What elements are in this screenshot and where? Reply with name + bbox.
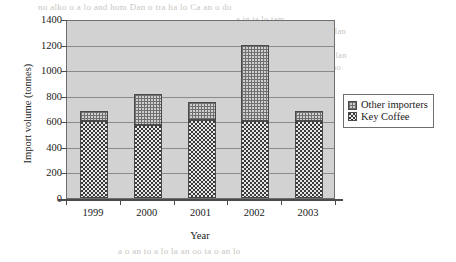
y-tick-mark: [61, 97, 67, 98]
bar-segment-key-coffee[interactable]: [80, 121, 108, 198]
bar-segment-other-importers[interactable]: [80, 111, 108, 121]
y-tick-mark: [61, 148, 67, 149]
x-tick-label: 2003: [286, 207, 330, 218]
gridline: [67, 46, 334, 47]
x-tick-label: 2000: [125, 207, 169, 218]
gridline: [67, 71, 334, 72]
x-tick-mark: [227, 199, 228, 205]
plot-area: [66, 20, 335, 199]
x-tick-label: 2001: [179, 207, 223, 218]
x-tick-mark: [174, 199, 175, 205]
bar-segment-other-importers[interactable]: [188, 102, 216, 120]
legend-swatch-icon: [348, 112, 357, 121]
chart-legend: Other importersKey Coffee: [343, 94, 434, 128]
bar-segment-other-importers[interactable]: [241, 45, 269, 122]
legend-entry[interactable]: Key Coffee: [348, 112, 428, 123]
scan-bleed-text: a o an to a lo la an oo ta o an lo: [118, 246, 241, 256]
y-tick-label: 1000: [41, 66, 62, 77]
x-tick-label: 1999: [71, 207, 115, 218]
x-tick-mark: [120, 199, 121, 205]
bar-segment-other-importers[interactable]: [134, 94, 162, 125]
y-tick-label: 800: [46, 91, 62, 102]
x-tick-mark: [335, 199, 336, 205]
x-tick-mark: [66, 199, 67, 205]
y-tick-label: 400: [46, 143, 62, 154]
y-tick-label: 600: [46, 117, 62, 128]
gridline: [67, 97, 334, 98]
y-tick-label: 1200: [41, 40, 62, 51]
bar-segment-key-coffee[interactable]: [241, 121, 269, 198]
legend-entry[interactable]: Other importers: [348, 100, 428, 111]
y-tick-mark: [61, 173, 67, 174]
scan-bleed-text: no alko o a lo and hom Dan o tra ha lo C…: [38, 2, 232, 12]
y-tick-label: 200: [46, 168, 62, 179]
legend-label: Key Coffee: [361, 112, 410, 123]
y-tick-mark: [61, 46, 67, 47]
x-axis-line: [58, 199, 343, 201]
y-tick-label: 1400: [41, 15, 62, 26]
bar-segment-key-coffee[interactable]: [295, 121, 323, 198]
y-tick-mark: [61, 71, 67, 72]
bar-segment-other-importers[interactable]: [295, 111, 323, 121]
y-tick-mark: [61, 122, 67, 123]
y-tick-mark: [61, 20, 67, 21]
y-axis-title: Import volume (tonnes): [22, 29, 33, 199]
legend-label: Other importers: [361, 100, 428, 111]
bar-segment-key-coffee[interactable]: [188, 120, 216, 198]
x-tick-mark: [281, 199, 282, 205]
x-tick-label: 2002: [232, 207, 276, 218]
bar-segment-key-coffee[interactable]: [134, 125, 162, 198]
chart-figure: no alko o a lo and hom Dan o tra ha lo C…: [0, 0, 456, 262]
x-axis-title: Year: [0, 230, 400, 241]
legend-swatch-icon: [348, 101, 357, 110]
